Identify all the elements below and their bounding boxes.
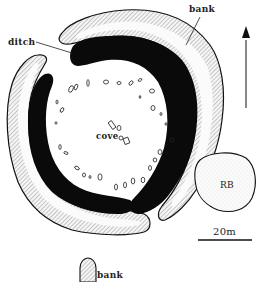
rb-label: RB — [220, 180, 234, 190]
scale-label: 20m — [213, 226, 236, 237]
ditch-label: ditch — [8, 37, 35, 47]
bank-label: bank — [189, 4, 215, 14]
cove-label: cove — [96, 131, 118, 141]
bank-south-fragment — [80, 258, 96, 282]
bank-south-label: bank — [97, 270, 123, 280]
henge-plan — [0, 0, 258, 282]
north-arrow-icon — [242, 26, 250, 108]
